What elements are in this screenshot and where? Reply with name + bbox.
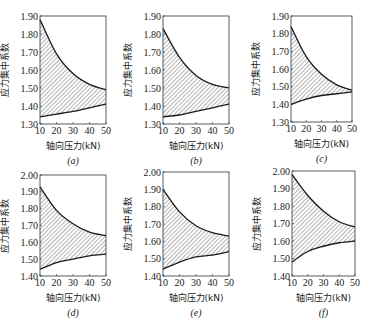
chart-panel-c: 1.301.401.501.601.701.801.901020304050轴向… <box>251 8 358 170</box>
x-tick-label: 10 <box>35 125 45 136</box>
x-tick-label: 40 <box>85 277 95 288</box>
x-tick-label: 30 <box>68 277 78 288</box>
x-tick-label: 10 <box>158 277 168 288</box>
x-axis-label: 轴向压力(kN) <box>46 140 101 151</box>
y-axis-label: 应力集中系数 <box>250 42 261 96</box>
y-tick-label: 1.70 <box>144 47 162 58</box>
y-tick-label: 1.50 <box>272 81 290 92</box>
x-tick-label: 50 <box>101 277 111 288</box>
y-tick-label: 1.80 <box>21 203 39 214</box>
x-tick-label: 20 <box>175 125 185 136</box>
chart-f: 1.401.501.601.701.801.902.001020304050轴向… <box>252 163 361 321</box>
hatched-band <box>163 29 229 117</box>
y-tick-label: 1.50 <box>21 254 39 265</box>
y-tick-label: 1.80 <box>144 29 162 40</box>
y-tick-label: 1.60 <box>272 64 290 75</box>
y-tick-label: 2.00 <box>273 166 291 177</box>
chart-panel-b: 1.301.401.501.601.701.801.901020304050轴向… <box>123 8 235 172</box>
y-tick-label: 2.00 <box>21 170 39 181</box>
y-tick-label: 1.90 <box>272 11 290 22</box>
y-axis-label: 应力集中系数 <box>0 199 10 253</box>
y-tick-label: 1.60 <box>144 236 162 247</box>
y-tick-label: 1.60 <box>144 65 162 76</box>
y-tick-label: 1.90 <box>144 11 162 22</box>
y-tick-label: 1.60 <box>21 237 39 248</box>
chart-c: 1.301.401.501.601.701.801.901020304050轴向… <box>251 8 358 170</box>
x-tick-label: 40 <box>85 125 95 136</box>
x-tick-label: 10 <box>287 277 297 288</box>
chart-b: 1.301.401.501.601.701.801.901020304050轴向… <box>123 8 235 172</box>
y-tick-label: 1.40 <box>21 101 39 112</box>
x-tick-label: 20 <box>52 277 62 288</box>
x-tick-label: 20 <box>52 125 62 136</box>
x-tick-label: 40 <box>208 277 218 288</box>
x-tick-label: 10 <box>158 125 168 136</box>
x-axis-label: 轴向压力(kN) <box>294 138 349 149</box>
chart-d: 1.401.501.601.701.801.902.001020304050轴向… <box>0 167 112 321</box>
y-tick-label: 1.90 <box>273 183 291 194</box>
y-tick-label: 1.40 <box>272 99 290 110</box>
y-tick-label: 1.50 <box>273 253 291 264</box>
y-tick-label: 1.80 <box>272 28 290 39</box>
y-tick-label: 1.40 <box>144 101 162 112</box>
y-tick-label: 2.00 <box>144 167 162 178</box>
x-axis-label: 轴向压力(kN) <box>169 140 224 151</box>
x-tick-label: 10 <box>35 277 45 288</box>
x-tick-label: 50 <box>224 125 234 136</box>
chart-panel-d: 1.401.501.601.701.801.902.001020304050轴向… <box>0 167 112 321</box>
y-tick-label: 1.90 <box>21 11 39 22</box>
x-tick-label: 10 <box>286 123 296 134</box>
x-tick-label: 30 <box>191 277 201 288</box>
y-tick-label: 1.70 <box>21 220 39 231</box>
chart-panel-e: 1.401.501.601.701.801.902.001020304050轴向… <box>123 164 235 321</box>
chart-panel-f: 1.401.501.601.701.801.902.001020304050轴向… <box>252 163 361 321</box>
y-tick-label: 1.90 <box>21 186 39 197</box>
y-tick-label: 1.90 <box>144 184 162 195</box>
x-tick-label: 50 <box>101 125 111 136</box>
x-tick-label: 30 <box>317 123 327 134</box>
y-axis-label: 应力集中系数 <box>251 197 262 251</box>
y-tick-label: 1.70 <box>144 219 162 230</box>
x-tick-label: 20 <box>301 123 311 134</box>
x-tick-label: 30 <box>319 277 329 288</box>
subfigure-caption: (d) <box>67 307 79 319</box>
y-tick-label: 1.60 <box>273 236 291 247</box>
x-tick-label: 40 <box>208 125 218 136</box>
subfigure-caption: (e) <box>190 307 202 319</box>
x-tick-label: 30 <box>68 125 78 136</box>
x-axis-label: 轴向压力(kN) <box>169 292 224 303</box>
y-tick-label: 1.50 <box>21 83 39 94</box>
y-tick-label: 1.80 <box>273 201 291 212</box>
subfigure-caption: (f) <box>319 307 329 319</box>
y-tick-label: 1.80 <box>21 29 39 40</box>
x-axis-label: 轴向压力(kN) <box>46 292 101 303</box>
x-axis-label: 轴向压力(kN) <box>296 292 351 303</box>
y-axis-label: 应力集中系数 <box>122 43 133 97</box>
x-tick-label: 30 <box>191 125 201 136</box>
x-tick-label: 20 <box>175 277 185 288</box>
subfigure-caption: (a) <box>67 155 79 167</box>
chart-a: 1.301.401.501.601.701.801.901020304050轴向… <box>0 8 112 172</box>
y-tick-label: 1.50 <box>144 253 162 264</box>
x-tick-label: 50 <box>347 123 357 134</box>
hatched-band <box>40 187 106 269</box>
y-tick-label: 1.80 <box>144 201 162 212</box>
x-tick-label: 50 <box>350 277 360 288</box>
y-tick-label: 1.70 <box>273 218 291 229</box>
y-axis-label: 应力集中系数 <box>0 43 10 97</box>
y-tick-label: 1.70 <box>21 47 39 58</box>
x-tick-label: 40 <box>332 123 342 134</box>
y-axis-label: 应力集中系数 <box>122 197 133 251</box>
x-tick-label: 50 <box>224 277 234 288</box>
y-tick-label: 1.60 <box>21 65 39 76</box>
chart-panel-a: 1.301.401.501.601.701.801.901020304050轴向… <box>0 8 112 172</box>
y-tick-label: 1.50 <box>144 83 162 94</box>
x-tick-label: 40 <box>334 277 344 288</box>
y-tick-label: 1.70 <box>272 46 290 57</box>
x-tick-label: 20 <box>303 277 313 288</box>
hatched-band <box>40 20 106 117</box>
chart-e: 1.401.501.601.701.801.902.001020304050轴向… <box>123 164 235 321</box>
